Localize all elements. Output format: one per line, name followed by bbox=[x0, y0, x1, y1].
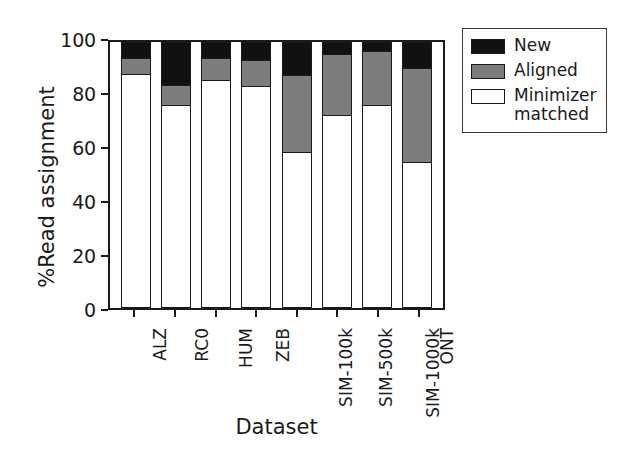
bar-segment-aligned bbox=[403, 68, 431, 161]
y-tick-80: 80 bbox=[72, 84, 108, 104]
x-tick-mark bbox=[174, 310, 176, 317]
y-tick-mark bbox=[101, 201, 108, 203]
y-tick-label: 100 bbox=[60, 31, 101, 50]
legend-item-new: New bbox=[471, 36, 597, 55]
stacked-bar[interactable] bbox=[322, 42, 352, 308]
x-axis-label: Dataset bbox=[108, 415, 445, 439]
x-tick-mark bbox=[336, 310, 338, 317]
x-tick-mark bbox=[215, 310, 217, 317]
bar-column bbox=[241, 42, 271, 308]
x-tick-mark bbox=[377, 310, 379, 317]
x-tick-mark bbox=[418, 310, 420, 317]
x-tick: SIM-500k bbox=[322, 310, 352, 410]
bar-segment-new bbox=[323, 43, 351, 54]
x-tick-mark bbox=[133, 310, 135, 317]
bar-column bbox=[121, 42, 151, 308]
x-tick: ZEB bbox=[241, 310, 271, 410]
x-tick: SIM-1000k bbox=[363, 310, 393, 410]
bar-column bbox=[161, 42, 191, 308]
bar-column bbox=[201, 42, 231, 308]
y-tick-mark bbox=[101, 39, 108, 41]
bar-column bbox=[402, 42, 432, 308]
bar-segment-minimizer-matched bbox=[122, 74, 150, 307]
y-tick-label: 0 bbox=[84, 301, 101, 320]
y-tick-label: 80 bbox=[72, 85, 101, 104]
bar-segment-aligned bbox=[283, 75, 311, 152]
bar-segment-aligned bbox=[162, 85, 190, 105]
legend-label: New bbox=[514, 36, 551, 55]
stacked-bar[interactable] bbox=[201, 42, 231, 308]
y-tick-label: 40 bbox=[72, 193, 101, 212]
x-tick-mark bbox=[296, 310, 298, 317]
legend-item-minimizer-matched: Minimizer matched bbox=[471, 86, 597, 124]
x-axis: ALZRC0HUMZEBSIM-100kSIM-500kSIM-1000kONT bbox=[108, 310, 445, 410]
bar-segment-minimizer-matched bbox=[162, 105, 190, 307]
stacked-bar[interactable] bbox=[362, 42, 392, 308]
bar-column bbox=[322, 42, 352, 308]
bar-segment-minimizer-matched bbox=[283, 152, 311, 307]
bars-container bbox=[110, 42, 443, 308]
y-tick-label: 60 bbox=[72, 139, 101, 158]
legend-label: Aligned bbox=[514, 61, 578, 80]
bar-column bbox=[282, 42, 312, 308]
y-tick-label: 20 bbox=[72, 247, 101, 266]
legend: New Aligned Minimizer matched bbox=[462, 28, 607, 133]
y-tick-mark bbox=[101, 309, 108, 311]
bar-segment-aligned bbox=[363, 51, 391, 105]
bar-segment-new bbox=[363, 43, 391, 51]
y-tick-100: 100 bbox=[60, 30, 108, 50]
bar-segment-aligned bbox=[323, 54, 351, 115]
stacked-bar[interactable] bbox=[241, 42, 271, 308]
plot-area bbox=[108, 40, 445, 310]
bar-segment-new bbox=[122, 43, 150, 58]
bar-segment-minimizer-matched bbox=[323, 115, 351, 307]
y-tick-mark bbox=[101, 147, 108, 149]
bar-segment-new bbox=[162, 43, 190, 85]
x-tick: SIM-100k bbox=[282, 310, 312, 410]
stacked-bar[interactable] bbox=[282, 42, 312, 308]
y-tick-0: 0 bbox=[84, 300, 108, 320]
y-tick-20: 20 bbox=[72, 246, 108, 266]
stacked-bar[interactable] bbox=[161, 42, 191, 308]
legend-item-aligned: Aligned bbox=[471, 61, 597, 80]
bar-segment-minimizer-matched bbox=[202, 80, 230, 307]
stacked-bar[interactable] bbox=[121, 42, 151, 308]
stacked-bar[interactable] bbox=[402, 42, 432, 308]
legend-swatch-aligned-icon bbox=[471, 64, 505, 79]
x-tick-mark bbox=[255, 310, 257, 317]
y-tick-40: 40 bbox=[72, 192, 108, 212]
bar-segment-new bbox=[202, 43, 230, 58]
bar-segment-aligned bbox=[202, 58, 230, 80]
stacked-bar-chart-figure: 100 80 60 40 20 0 %Read assignment ALZRC… bbox=[0, 0, 624, 463]
bar-column bbox=[362, 42, 392, 308]
bar-segment-minimizer-matched bbox=[363, 105, 391, 307]
x-tick: ONT bbox=[404, 310, 434, 410]
bar-segment-aligned bbox=[122, 58, 150, 74]
y-axis-label: %Read assignment bbox=[35, 62, 59, 312]
legend-swatch-new-icon bbox=[471, 39, 505, 54]
bar-segment-minimizer-matched bbox=[403, 162, 431, 307]
x-tick: HUM bbox=[201, 310, 231, 410]
x-tick: ALZ bbox=[119, 310, 149, 410]
x-tick: RC0 bbox=[160, 310, 190, 410]
legend-label: Minimizer matched bbox=[514, 86, 597, 124]
legend-swatch-minimizer-matched-icon bbox=[471, 89, 505, 104]
bar-segment-new bbox=[242, 43, 270, 60]
y-tick-mark bbox=[101, 255, 108, 257]
x-tick-label: ONT bbox=[437, 328, 457, 364]
bar-segment-minimizer-matched bbox=[242, 86, 270, 307]
y-tick-mark bbox=[101, 93, 108, 95]
bar-segment-aligned bbox=[242, 60, 270, 87]
bar-segment-new bbox=[283, 43, 311, 75]
bar-segment-new bbox=[403, 43, 431, 68]
y-tick-60: 60 bbox=[72, 138, 108, 158]
